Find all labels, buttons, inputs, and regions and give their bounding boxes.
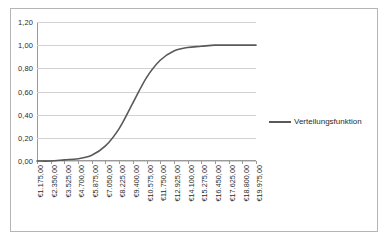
legend-label: Verteilungsfunktion (294, 117, 362, 126)
x-axis-tick-label: €16.450,00 (214, 165, 223, 201)
x-axis-tick-label: €3.525,00 (63, 165, 72, 197)
y-axis-tick-label: 0,00 (18, 157, 33, 166)
legend-line-swatch (269, 121, 291, 123)
x-axis-tick-mark (174, 161, 175, 164)
x-axis-tick-mark (92, 161, 93, 164)
x-axis-tick-mark (119, 161, 120, 164)
x-axis-tick-mark (105, 161, 106, 164)
x-axis-tick-label: €19.975,00 (255, 165, 264, 201)
x-axis-tick-mark (201, 161, 202, 164)
y-axis-tick-label: 0,80 (18, 64, 33, 73)
x-axis-tick-label: €4.700,00 (77, 165, 86, 197)
x-axis-tick-label: €11.750,00 (159, 165, 168, 201)
chart-legend: Verteilungsfunktion (269, 117, 362, 126)
x-axis-tick-label: €8.225,00 (118, 165, 127, 197)
x-axis-tick-mark (160, 161, 161, 164)
y-axis-tick-label: 1,20 (18, 18, 33, 27)
x-axis-tick-label: €10.575,00 (145, 165, 154, 201)
plot-area: 0,000,200,400,600,801,001,20 €1.175,00€2… (37, 22, 256, 161)
x-axis-tick-label: €5.875,00 (90, 165, 99, 197)
series-line-verteilungsfunktion (37, 22, 256, 161)
x-axis-tick-mark (229, 161, 230, 164)
x-axis-tick-mark (242, 161, 243, 164)
x-axis-tick-mark (133, 161, 134, 164)
x-axis-tick-mark (215, 161, 216, 164)
x-axis-tick-mark (188, 161, 189, 164)
x-axis-tick-mark (256, 161, 257, 164)
chart-container: 0,000,200,400,600,801,001,20 €1.175,00€2… (10, 8, 378, 232)
y-axis-tick-label: 0,20 (18, 133, 33, 142)
y-axis-tick-label: 0,60 (18, 87, 33, 96)
x-axis-tick-label: €18.800,00 (241, 165, 250, 201)
x-axis-tick-label: €15.275,00 (200, 165, 209, 201)
x-axis-tick-mark (147, 161, 148, 164)
y-axis-tick-label: 1,00 (18, 41, 33, 50)
x-axis-tick-label: €1.175,00 (36, 165, 45, 197)
x-axis-tick-label: €7.050,00 (104, 165, 113, 197)
x-axis-tick-label: €2.350,00 (49, 165, 58, 197)
x-axis-tick-label: €17.625,00 (227, 165, 236, 201)
x-axis-tick-mark (78, 161, 79, 164)
x-axis-tick-label: €14.100,00 (186, 165, 195, 201)
x-axis-tick-label: €9.400,00 (132, 165, 141, 197)
x-axis-tick-mark (64, 161, 65, 164)
y-axis-tick-label: 0,40 (18, 110, 33, 119)
x-axis-tick-label: €12.925,00 (173, 165, 182, 201)
